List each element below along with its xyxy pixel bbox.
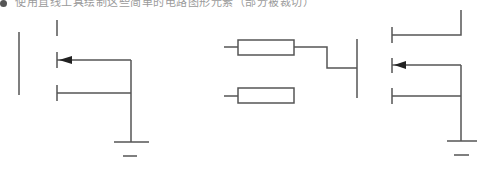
arrow-icon	[59, 56, 72, 64]
arrow-icon	[394, 61, 406, 69]
resistor1	[238, 40, 294, 55]
circuit-diagram	[0, 0, 492, 169]
resistor-gate-circuit	[224, 39, 357, 103]
mosfet-right	[392, 10, 477, 155]
resistor2	[238, 88, 294, 103]
drain-line	[392, 10, 461, 35]
resistor1-wire	[294, 47, 357, 68]
mosfet-left	[19, 20, 149, 156]
